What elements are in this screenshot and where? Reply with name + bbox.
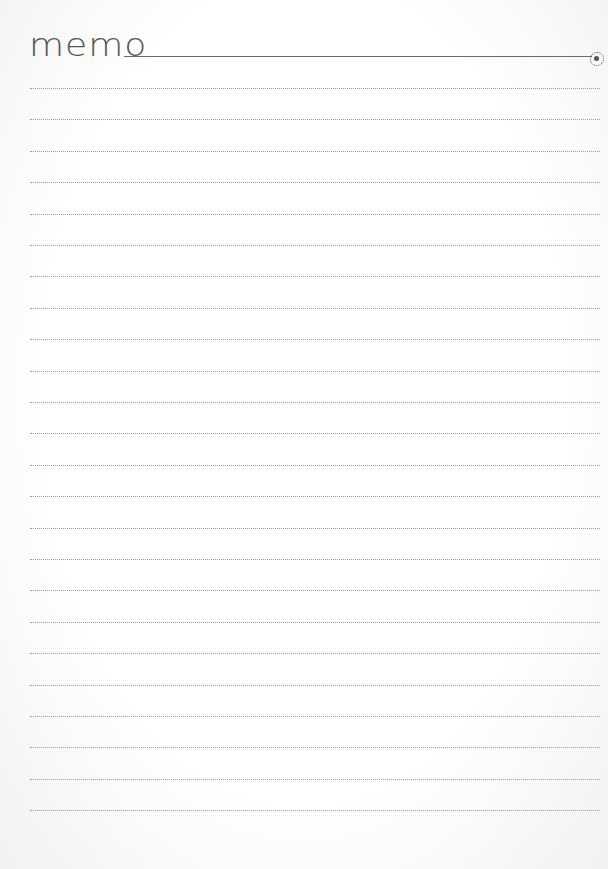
ruled-line xyxy=(30,214,600,215)
ruled-line xyxy=(30,245,600,246)
ruled-line xyxy=(30,88,600,89)
ruled-line xyxy=(30,622,600,623)
ruled-line xyxy=(30,559,600,560)
ruled-line xyxy=(30,308,600,309)
ruled-line xyxy=(30,747,600,748)
ruled-line xyxy=(30,182,600,183)
ruled-line xyxy=(30,685,600,686)
ruled-line xyxy=(30,433,600,434)
ruled-line xyxy=(30,810,600,811)
ruled-line xyxy=(30,119,600,120)
ruled-line xyxy=(30,402,600,403)
ruled-line xyxy=(30,496,600,497)
ruled-line xyxy=(30,779,600,780)
ruled-line xyxy=(30,276,600,277)
title-underline xyxy=(124,56,592,57)
ruled-line xyxy=(30,465,600,466)
ruled-line xyxy=(30,371,600,372)
ruled-line xyxy=(30,339,600,340)
memo-page: memo xyxy=(0,0,608,869)
ruled-line xyxy=(30,151,600,152)
ruled-line xyxy=(30,528,600,529)
ruled-line xyxy=(30,653,600,654)
ring-hole-icon xyxy=(590,52,604,66)
ruled-line xyxy=(30,590,600,591)
ruled-line xyxy=(30,716,600,717)
